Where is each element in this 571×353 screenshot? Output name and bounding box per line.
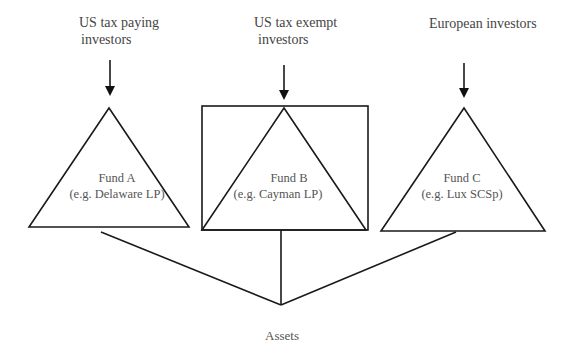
fund-b-triangle — [202, 108, 366, 230]
investor-label-a: US tax paying investors — [79, 14, 159, 48]
fund-c-name: Fund C — [421, 170, 502, 186]
fund-a-name: Fund A — [69, 170, 164, 186]
fund-a-example: (e.g. Delaware LP) — [69, 186, 164, 202]
investor-b-line2: investors — [254, 31, 337, 48]
fund-a-label: Fund A (e.g. Delaware LP) — [69, 170, 164, 202]
fund-b-example: (e.g. Cayman LP) — [234, 186, 323, 202]
fund-b-name: Fund B — [234, 170, 323, 186]
arrow-head-c — [459, 88, 469, 98]
arrow-head-a — [105, 86, 115, 96]
connector-c-assets — [281, 232, 456, 305]
fund-a-triangle — [29, 108, 189, 227]
fund-b-box — [202, 106, 368, 230]
fund-b-label: Fund B (e.g. Cayman LP) — [234, 170, 323, 202]
investor-c-line1: European investors — [429, 15, 537, 32]
investor-a-line2: investors — [79, 31, 159, 48]
investor-a-line1: US tax paying — [79, 14, 159, 31]
investor-label-c: European investors — [429, 15, 537, 32]
fund-c-example: (e.g. Lux SCSp) — [421, 186, 502, 202]
investor-b-line1: US tax exempt — [254, 14, 337, 31]
investor-label-b: US tax exempt investors — [254, 14, 337, 48]
fund-c-label: Fund C (e.g. Lux SCSp) — [421, 170, 502, 202]
assets-label: Assets — [265, 328, 299, 344]
arrow-head-b — [279, 90, 289, 100]
connector-a-assets — [101, 232, 281, 305]
